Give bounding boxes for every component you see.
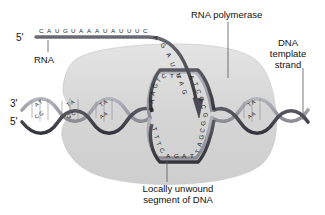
rna-base: U [103,27,108,34]
unwound-label-line2: segment of DNA [143,194,213,205]
transcription-diagram: C A U G U A A A U A U U U C A G A U U A … [0,0,325,215]
unwound-label-line1: Locally unwound [143,183,214,194]
diagram-canvas: C A U G U A A A U A U U U C A G A U U A … [0,0,325,215]
dna-template-label-line1: DNA [278,37,299,48]
dna-base: A [182,152,187,159]
dna-base: G [174,152,179,159]
rna-base: U [55,27,60,34]
dna-five-prime-label: 5' [10,116,18,127]
rna-label: RNA [34,54,55,65]
rna-sequence-horizontal: C A U G U A A A U A U U U C [39,27,148,34]
dna-base: T [190,152,194,159]
dna-base-pair: C G [33,110,44,120]
dna-three-prime-label: 3' [10,98,18,109]
rna-base: U [71,27,76,34]
dna-base: T [170,72,174,79]
rna-five-prime-label: 5' [16,32,24,43]
rna-base: U [119,27,124,34]
rna-base: A [47,27,52,34]
rna-base: C [143,27,148,34]
dna-base: A [166,152,171,159]
rna-base: A [111,27,116,34]
rna-polymerase-label: RNA polymerase [191,9,262,20]
rna-base: U [127,27,132,34]
dna-template-label-line2: template [270,48,306,59]
rna-base: A [79,27,84,34]
rna-base: A [95,27,100,34]
rna-base: C [39,27,44,34]
dna-base: G [199,120,207,126]
rna-base: A [87,27,92,34]
rna-base: G [63,27,68,34]
rna-base: U [135,27,140,34]
dna-base: G [202,112,210,118]
dna-template-label-line3: strand [275,59,301,70]
dna-base: A [177,72,182,79]
